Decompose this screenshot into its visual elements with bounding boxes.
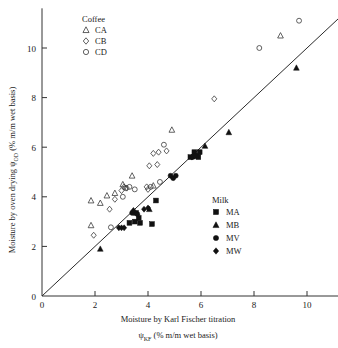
- scatter-chart: 02468100246810CoffeeCACBCDMilkMAMBMVMWMo…: [0, 0, 338, 348]
- legend-marker-MW: [213, 248, 218, 254]
- data-point-MW: [141, 206, 146, 212]
- y-tick-label: 0: [32, 292, 37, 302]
- data-point-CA: [278, 33, 284, 38]
- data-point-CA: [88, 198, 94, 203]
- x-axis-title: Moisture by Karl Fischer titration: [121, 314, 236, 324]
- legend-label-MV: MV: [226, 233, 241, 243]
- y-tick-label: 8: [32, 93, 37, 103]
- legend-label-MB: MB: [226, 220, 240, 230]
- legend-marker-MB: [213, 222, 219, 228]
- data-point-MV: [135, 212, 140, 217]
- data-point-CD: [157, 179, 162, 184]
- legend-label-MW: MW: [226, 246, 242, 256]
- data-point-CA: [104, 193, 110, 198]
- data-point-CB: [156, 149, 161, 155]
- y-tick-label: 10: [27, 44, 37, 54]
- data-point-MA: [150, 222, 155, 227]
- milk-legend-title: Milk: [212, 195, 229, 205]
- legend-label-CA: CA: [95, 25, 108, 35]
- legend-marker-CD: [83, 49, 88, 54]
- x-tick-label: 2: [93, 300, 98, 310]
- data-point-MB: [97, 246, 103, 251]
- data-point-CD: [120, 194, 125, 199]
- data-point-CD: [108, 225, 113, 230]
- x-axis-subtitle: ψKF (% m/m wet basis): [138, 330, 217, 342]
- data-point-MA: [197, 150, 202, 155]
- data-point-MV: [173, 173, 178, 178]
- data-point-CB: [147, 163, 152, 169]
- data-point-MA: [154, 198, 159, 203]
- legend-marker-MA: [213, 209, 218, 214]
- legend-marker-MV: [213, 235, 218, 240]
- y-axis-title: Moisture by oven drying ψOD (% m/m wet b…: [7, 87, 19, 254]
- data-point-CB: [112, 196, 117, 202]
- legend-marker-CB: [83, 38, 88, 44]
- legend-label-CB: CB: [95, 36, 107, 46]
- coffee-legend-title: Coffee: [82, 14, 105, 24]
- y-tick-label: 4: [32, 192, 37, 202]
- data-point-CB: [164, 148, 169, 154]
- data-point-MB: [294, 65, 300, 70]
- data-point-CD: [161, 142, 166, 147]
- legend-label-CD: CD: [95, 47, 107, 57]
- data-point-CB: [212, 96, 217, 102]
- data-point-CD: [257, 46, 262, 51]
- data-point-MA: [127, 220, 132, 225]
- data-point-CD: [297, 18, 302, 23]
- data-point-CD: [132, 187, 137, 192]
- data-point-CA: [129, 173, 135, 178]
- data-point-CA: [112, 190, 118, 195]
- legend-marker-CA: [83, 27, 89, 33]
- x-tick-label: 0: [40, 300, 45, 310]
- data-point-CB: [107, 206, 112, 212]
- x-tick-label: 8: [252, 300, 257, 310]
- data-point-MB: [226, 129, 232, 134]
- x-tick-label: 10: [303, 300, 313, 310]
- x-tick-label: 4: [146, 300, 151, 310]
- data-point-MA: [138, 220, 143, 225]
- x-tick-label: 6: [199, 300, 204, 310]
- data-point-CA: [97, 200, 103, 205]
- data-point-CB: [151, 150, 156, 156]
- data-point-CA: [169, 127, 175, 132]
- y-tick-label: 2: [32, 242, 37, 252]
- data-point-CA: [88, 222, 94, 227]
- data-point-CB: [155, 162, 160, 168]
- plot-area: 02468100246810CoffeeCACBCDMilkMAMBMVMWMo…: [0, 0, 338, 348]
- legend-label-MA: MA: [226, 207, 241, 217]
- data-point-CB: [91, 232, 96, 238]
- y-tick-label: 6: [32, 143, 37, 153]
